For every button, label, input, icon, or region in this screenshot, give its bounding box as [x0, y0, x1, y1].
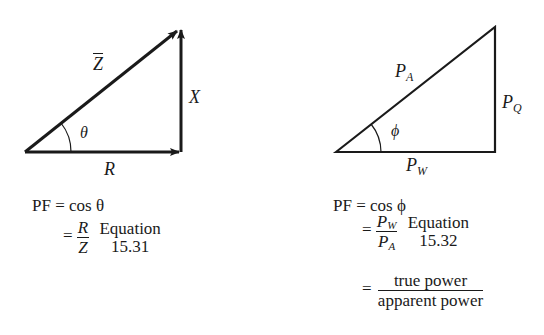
- power-triangle: [336, 27, 495, 152]
- x-label: X: [189, 88, 200, 106]
- right-pf-fraction-line: = PW PA Equation 15.32: [362, 213, 469, 250]
- phi-angle-arc: [371, 124, 381, 152]
- pw-label: PW: [406, 156, 427, 174]
- left-pf-line: PF = cos θ: [32, 197, 104, 214]
- right-pf-line: PF = cos ϕ: [333, 197, 406, 214]
- phi-label: ϕ: [391, 123, 399, 139]
- r-over-z-fraction: R Z: [77, 219, 89, 256]
- right-power-ratio-line: = true power apparent power: [362, 272, 483, 309]
- left-pf-fraction-line: = R Z Equation 15.31: [63, 219, 161, 256]
- true-over-apparent-fraction: true power apparent power: [378, 272, 483, 309]
- r-label: R: [104, 160, 115, 178]
- theta-label: θ: [80, 125, 88, 141]
- equation-ref-15-31: Equation 15.31: [99, 220, 160, 256]
- equation-ref-15-32: Equation 15.32: [408, 214, 469, 250]
- z-label: Z: [93, 55, 103, 73]
- z-vector: [25, 31, 177, 152]
- pa-label: PA: [395, 62, 413, 80]
- pw-over-pa-fraction: PW PA: [376, 213, 398, 250]
- impedance-triangle: [25, 30, 181, 152]
- pq-label: PQ: [502, 93, 522, 111]
- theta-angle-arc: [61, 123, 71, 152]
